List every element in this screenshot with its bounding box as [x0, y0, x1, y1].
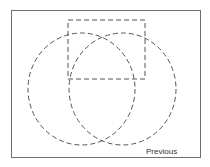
dashed-rectangle — [68, 20, 145, 79]
dashed-ellipse-right — [69, 33, 176, 145]
diagram-canvas — [0, 0, 210, 167]
dashed-ellipse-left — [28, 33, 135, 145]
previous-link[interactable]: Previous — [146, 147, 177, 157]
